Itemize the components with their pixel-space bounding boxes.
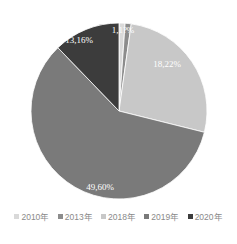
- legend-item-2019: 2019年: [144, 210, 179, 222]
- slice-label: 18,22%: [153, 59, 181, 69]
- legend-label: 2019年: [151, 212, 179, 222]
- legend-item-2013: 2013年: [58, 210, 93, 222]
- legend-item-2018: 2018年: [101, 210, 136, 222]
- legend-swatch-icon: [14, 214, 19, 219]
- legend-swatch-icon: [144, 214, 149, 219]
- slice-label: 13,16%: [65, 35, 93, 45]
- legend-item-2010: 2010年: [14, 210, 49, 222]
- legend-swatch-icon: [188, 214, 193, 219]
- legend-swatch-icon: [101, 214, 106, 219]
- legend-label: 2010年: [21, 212, 49, 222]
- legend-label: 2018年: [108, 212, 136, 222]
- legend-swatch-icon: [58, 214, 63, 219]
- slice-label: 1,1?%: [112, 25, 135, 35]
- pie-chart: 1,1?%18,22%49,60%13,16%: [0, 0, 237, 244]
- pie-slices: [31, 23, 207, 199]
- legend-label: 2013年: [65, 212, 93, 222]
- slice-label: 49,60%: [86, 182, 114, 192]
- legend: 2010年 2013年 2018年 2019年 2020年: [0, 210, 237, 222]
- legend-item-2020: 2020年: [188, 210, 223, 222]
- legend-label: 2020年: [195, 212, 223, 222]
